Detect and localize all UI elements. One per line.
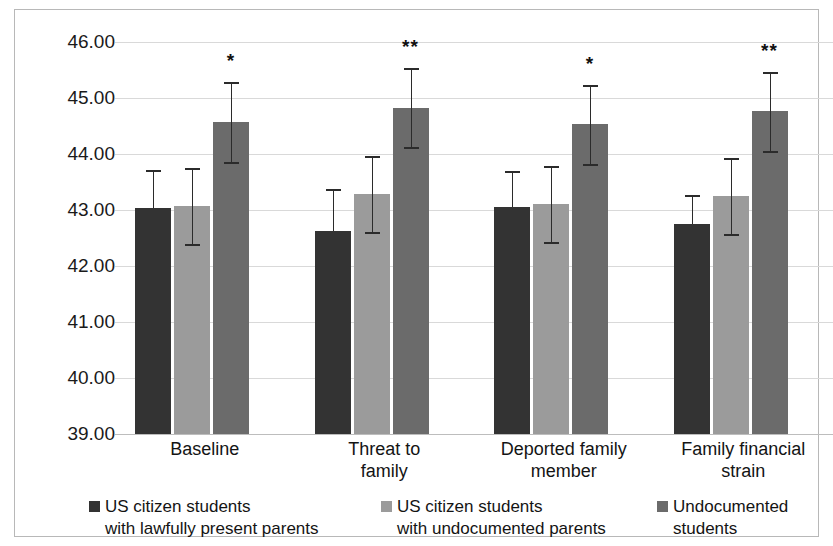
legend-label: US citizen students with lawfully presen… [105,496,319,540]
error-bar [153,170,154,208]
error-bar [692,195,693,224]
y-axis: 46.0045.0044.0043.0042.0041.0040.0039.00 [21,42,115,434]
axis-baseline [115,434,833,435]
error-bar-cap-bottom [404,147,419,149]
chart-frame: 46.0045.0044.0043.0042.0041.0040.0039.00… [14,9,819,537]
bar[interactable] [315,231,351,434]
error-bar-cap-bottom [763,151,778,153]
error-bar [731,158,732,233]
y-axis-tick-label: 39.00 [31,424,115,443]
error-bar-cap-bottom [583,164,598,166]
x-axis-category-label: Baseline [115,438,295,460]
error-bar [231,82,232,162]
y-axis-tick-label: 45.00 [31,88,115,107]
bar[interactable] [674,224,710,434]
legend-label: Undocumented students [673,496,788,540]
legend-label: US citizen students with undocumented pa… [397,496,606,540]
chart-legend: US citizen students with lawfully presen… [29,496,833,546]
error-bar-cap-bottom [224,162,239,164]
x-axis-category-labels: BaselineThreat to familyDeported family … [115,438,833,488]
error-bar [770,72,771,152]
y-axis-tick-label: 42.00 [31,256,115,275]
x-axis-category-label: Deported family member [474,438,654,482]
significance-marker: * [206,54,256,68]
error-bar [590,85,591,164]
error-bar-cap-top [224,82,239,84]
error-bar-cap-top [505,171,520,173]
bar-group: ** [295,42,475,434]
error-bar-cap-bottom [185,244,200,246]
legend-swatch-icon [657,501,668,512]
error-bar-cap-top [583,85,598,87]
y-axis-tick-label: 40.00 [31,368,115,387]
legend-swatch-icon [89,501,100,512]
error-bar-cap-bottom [365,232,380,234]
bar-chart-figure: 46.0045.0044.0043.0042.0041.0040.0039.00… [0,0,833,546]
error-bar [551,166,552,242]
error-bar-cap-top [544,166,559,168]
x-axis-category-label: Family financial strain [654,438,833,482]
error-bar [333,189,334,231]
error-bar-cap-top [365,156,380,158]
error-bar-cap-top [724,158,739,160]
y-axis-tick-label: 44.00 [31,144,115,163]
error-bar-cap-bottom [724,234,739,236]
y-axis-tick-label: 41.00 [31,312,115,331]
bar[interactable] [572,124,608,434]
y-axis-tick-label: 43.00 [31,200,115,219]
plot-area: ****** [115,42,833,434]
bar[interactable] [213,122,249,434]
legend-swatch-icon [381,501,392,512]
bar[interactable] [393,108,429,434]
error-bar-cap-top [146,170,161,172]
error-bar [372,156,373,232]
error-bar-cap-bottom [544,242,559,244]
bar-group: * [115,42,295,434]
legend-item[interactable]: US citizen students with lawfully presen… [89,496,319,540]
x-axis-category-label: Threat to family [295,438,475,482]
error-bar-cap-top [685,195,700,197]
bar[interactable] [494,207,530,434]
legend-item[interactable]: Undocumented students [657,496,788,540]
significance-marker: ** [745,44,795,58]
bar-group: ** [654,42,833,434]
significance-marker: ** [386,40,436,54]
bar[interactable] [752,111,788,434]
bar[interactable] [135,208,171,434]
error-bar [512,171,513,207]
error-bar [192,168,193,244]
error-bar-cap-top [404,68,419,70]
bar-group: * [474,42,654,434]
significance-marker: * [565,57,615,71]
legend-item[interactable]: US citizen students with undocumented pa… [381,496,606,540]
y-axis-tick-label: 46.00 [31,32,115,51]
error-bar [411,68,412,147]
error-bar-cap-top [763,72,778,74]
error-bar-cap-top [185,168,200,170]
error-bar-cap-top [326,189,341,191]
